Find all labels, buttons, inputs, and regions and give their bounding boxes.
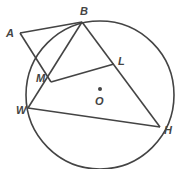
segment-bw (28, 22, 82, 108)
label-w: W (16, 104, 28, 116)
label-h: H (164, 124, 173, 136)
label-o: O (95, 95, 104, 107)
center-point-o (98, 87, 102, 91)
label-a: A (5, 27, 14, 39)
label-m: M (36, 72, 46, 84)
segment-ml (51, 64, 114, 82)
segment-wh (28, 108, 160, 127)
label-l: L (118, 55, 125, 67)
label-b: B (80, 5, 88, 17)
geometry-diagram: A B L M W H O (0, 0, 184, 169)
segment-ab (20, 22, 82, 33)
segment-bh (82, 22, 160, 127)
